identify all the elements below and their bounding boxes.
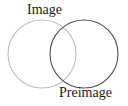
preimage-circle [50, 20, 118, 88]
image-circle [8, 20, 76, 88]
image-label: Image [27, 3, 62, 17]
preimage-label: Preimage [59, 86, 112, 100]
